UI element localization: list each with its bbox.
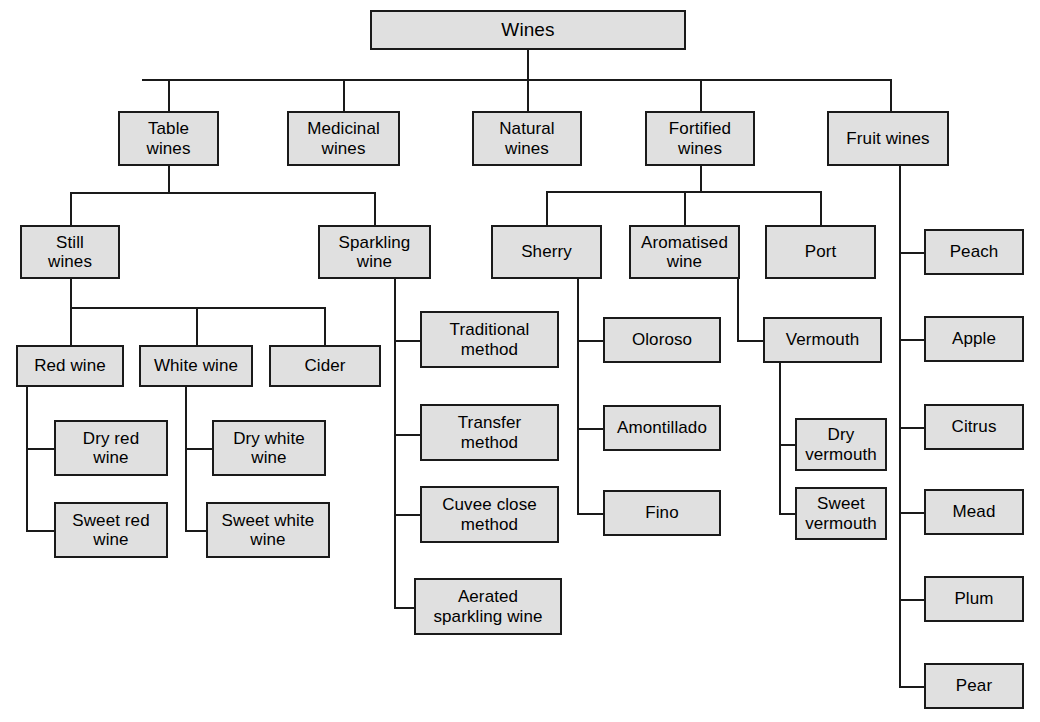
connector-sparkling-cuvee-arm xyxy=(394,514,422,516)
node-aromatised-wine[interactable]: Aromatised wine xyxy=(629,225,740,279)
node-fruit-wines[interactable]: Fruit wines xyxy=(827,111,949,166)
connector-red-dry-arm xyxy=(26,448,56,450)
node-pear[interactable]: Pear xyxy=(924,663,1024,709)
node-apple[interactable]: Apple xyxy=(924,316,1024,362)
connector-fruit-apple-arm xyxy=(899,339,926,341)
node-wines[interactable]: Wines xyxy=(370,10,686,50)
node-port[interactable]: Port xyxy=(765,225,876,279)
connector-sherry-oloroso-arm xyxy=(577,340,605,342)
node-traditional-method[interactable]: Traditional method xyxy=(420,311,559,368)
connector-drop-sparkling xyxy=(374,192,376,225)
connector-table-stem xyxy=(168,166,170,193)
node-plum[interactable]: Plum xyxy=(924,576,1024,622)
connector-drop-medicinal xyxy=(343,79,345,111)
node-oloroso[interactable]: Oloroso xyxy=(603,317,721,363)
node-dry-red-wine[interactable]: Dry red wine xyxy=(54,420,168,476)
connector-sherry-fino-arm xyxy=(577,513,605,515)
connector-fruit-mead-arm xyxy=(899,512,926,514)
connector-red-sweet-arm xyxy=(26,530,56,532)
connector-level1-bus xyxy=(142,79,891,81)
connector-white-spine xyxy=(185,387,187,532)
node-cider[interactable]: Cider xyxy=(269,345,381,387)
node-transfer-method[interactable]: Transfer method xyxy=(420,404,559,461)
node-still-wines[interactable]: Still wines xyxy=(20,225,120,279)
connector-still-bus xyxy=(70,307,326,309)
node-amontillado[interactable]: Amontillado xyxy=(603,405,721,451)
node-white-wine[interactable]: White wine xyxy=(139,345,253,387)
node-cuvee-close-method[interactable]: Cuvee close method xyxy=(420,486,559,543)
node-peach[interactable]: Peach xyxy=(924,229,1024,275)
connector-aromatised-vermouth-arm xyxy=(737,340,765,342)
connector-drop-port xyxy=(820,191,822,225)
node-dry-vermouth[interactable]: Dry vermouth xyxy=(795,418,887,471)
connector-drop-sherry xyxy=(546,191,548,225)
node-red-wine[interactable]: Red wine xyxy=(16,345,124,387)
connector-drop-aromatised xyxy=(684,191,686,225)
node-aerated-sparkling-wine[interactable]: Aerated sparkling wine xyxy=(414,578,562,635)
connector-drop-fruit xyxy=(890,79,892,111)
connector-sparkling-spine xyxy=(394,279,396,609)
connector-drop-table xyxy=(168,79,170,111)
connector-white-dry-arm xyxy=(185,448,214,450)
connector-fruit-plum-arm xyxy=(899,599,926,601)
node-medicinal-wines[interactable]: Medicinal wines xyxy=(287,111,400,166)
node-sherry[interactable]: Sherry xyxy=(491,225,602,279)
connector-fruit-pear-arm xyxy=(899,686,926,688)
node-sweet-vermouth[interactable]: Sweet vermouth xyxy=(795,487,887,540)
wine-classification-diagram: Wines Table wines Medicinal wines Natura… xyxy=(0,0,1040,722)
node-dry-white-wine[interactable]: Dry white wine xyxy=(212,420,326,476)
connector-drop-white xyxy=(196,307,198,345)
connector-sherry-spine xyxy=(577,279,579,515)
node-sweet-red-wine[interactable]: Sweet red wine xyxy=(54,502,168,558)
node-table-wines[interactable]: Table wines xyxy=(118,111,219,166)
node-citrus[interactable]: Citrus xyxy=(924,404,1024,450)
connector-fruit-peach-arm xyxy=(899,252,926,254)
connector-still-stem xyxy=(70,279,72,308)
connector-table-bus xyxy=(70,192,376,194)
node-mead[interactable]: Mead xyxy=(924,489,1024,535)
connector-red-spine xyxy=(26,387,28,532)
node-fortified-wines[interactable]: Fortified wines xyxy=(645,111,755,166)
connector-vermouth-spine xyxy=(779,363,781,515)
node-sweet-white-wine[interactable]: Sweet white wine xyxy=(206,502,330,558)
connector-root-stem xyxy=(527,50,529,80)
node-natural-wines[interactable]: Natural wines xyxy=(472,111,582,166)
connector-fortified-stem xyxy=(700,166,702,192)
connector-aromatised-spine xyxy=(737,279,739,341)
connector-drop-red xyxy=(70,307,72,345)
node-fino[interactable]: Fino xyxy=(603,490,721,536)
node-vermouth[interactable]: Vermouth xyxy=(763,317,882,363)
node-sparkling-wine[interactable]: Sparkling wine xyxy=(318,225,431,279)
connector-drop-still xyxy=(70,192,72,225)
connector-drop-fortified xyxy=(700,79,702,111)
connector-drop-cider xyxy=(324,307,326,345)
connector-sparkling-transfer-arm xyxy=(394,434,422,436)
connector-sherry-amontillado-arm xyxy=(577,428,605,430)
connector-fruit-citrus-arm xyxy=(899,427,926,429)
connector-sparkling-traditional-arm xyxy=(394,340,422,342)
connector-drop-natural xyxy=(527,79,529,111)
